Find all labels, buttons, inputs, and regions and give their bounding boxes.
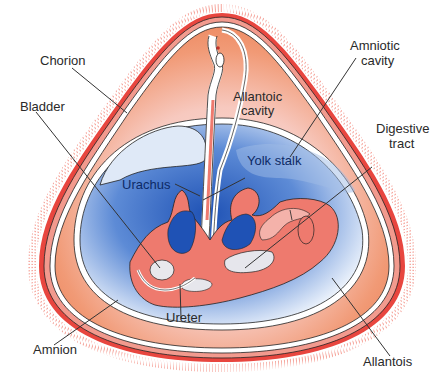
label-amniotic-cavity-2: cavity <box>361 53 395 68</box>
label-digestive-tract-1: Digestive <box>376 121 429 136</box>
label-amnion: Amnion <box>33 342 77 357</box>
label-yolk-stalk: Yolk stalk <box>247 153 302 168</box>
label-chorion: Chorion <box>40 53 86 68</box>
label-allantoic-cavity-1: Allantoic <box>233 89 283 104</box>
label-allantois: Allantois <box>363 354 413 369</box>
label-amniotic-cavity-1: Amniotic <box>350 38 400 53</box>
bladder <box>150 260 174 280</box>
embryo-membranes-diagram: Chorion Amniotic cavity Allantoic cavity… <box>0 0 444 385</box>
label-ureter: Ureter <box>166 310 203 325</box>
label-allantoic-cavity-2: cavity <box>241 103 275 118</box>
label-digestive-tract-2: tract <box>389 136 415 151</box>
label-urachus: Urachus <box>122 177 171 192</box>
label-bladder: Bladder <box>20 99 65 114</box>
